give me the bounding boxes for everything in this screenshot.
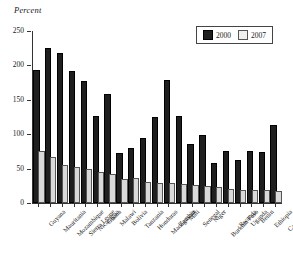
x-tick-mark [85, 203, 86, 207]
bar-group [199, 31, 208, 203]
bar-group [247, 31, 256, 203]
legend-entry-2007: 2007 [238, 30, 266, 40]
bar-2007-ghana [98, 172, 104, 203]
bar-2007-bolivia [121, 179, 127, 203]
bar-group [128, 31, 137, 203]
x-tick-mark [133, 203, 134, 207]
plot-area [32, 31, 281, 203]
bar-group [259, 31, 268, 203]
x-tick-mark [251, 203, 252, 207]
bar-group [81, 31, 90, 203]
bar-group [57, 31, 66, 203]
y-tick-label: 50 [0, 164, 24, 173]
y-tick-mark [27, 169, 31, 170]
x-tick-mark [240, 203, 241, 207]
bar-group [69, 31, 78, 203]
bar-2007-ethiopia [264, 190, 270, 203]
bar-group [93, 31, 102, 203]
y-tick-label: 250 [0, 26, 24, 35]
bar-2007-cameroon [275, 191, 281, 203]
y-tick-mark [27, 31, 31, 32]
y-tick-mark [27, 100, 31, 101]
y-tick-label: 200 [0, 60, 24, 69]
bar-2007-honduras [145, 182, 151, 203]
bar-group [116, 31, 125, 203]
y-tick-label: 150 [0, 95, 24, 104]
bar-group [187, 31, 196, 203]
x-tick-mark [38, 203, 39, 207]
bar-2007-mali [181, 184, 187, 203]
x-tick-mark [145, 203, 146, 207]
x-tick-mark [62, 203, 63, 207]
x-tick-mark [204, 203, 205, 207]
x-tick-mark [50, 203, 51, 207]
chart-legend: 2000 2007 [196, 26, 273, 44]
bar-2007-senegal [192, 185, 198, 204]
y-tick-label: 0 [0, 198, 24, 207]
legend-swatch-icon-2000 [203, 30, 213, 40]
bar-group [164, 31, 173, 203]
x-tick-mark [168, 203, 169, 207]
x-tick-mark [192, 203, 193, 207]
x-tick-mark [121, 203, 122, 207]
y-tick-label: 100 [0, 129, 24, 138]
bar-chart-figure: Percent 050100150200250 GuyanaMauritania… [0, 0, 293, 255]
bar-2007-rwanda [228, 189, 234, 203]
y-tick-mark [27, 203, 31, 204]
bar-2007-niger [204, 186, 210, 203]
bar-group [176, 31, 185, 203]
bar-2007-malawi [109, 174, 115, 203]
bar-group [152, 31, 161, 203]
bar-2007-mozambique [62, 165, 68, 203]
legend-entry-2000: 2000 [203, 30, 231, 40]
x-tick-mark [180, 203, 181, 207]
legend-label-2007: 2007 [251, 31, 266, 40]
bar-2007-madagascar [157, 183, 163, 203]
bar-2007-uganda [240, 190, 246, 203]
bar-2007-tanzania [133, 178, 139, 203]
bar-group [211, 31, 220, 203]
bar-2007-zambia [169, 183, 175, 203]
y-axis-title: Percent [14, 5, 42, 15]
bar-group [223, 31, 232, 203]
x-tick-mark [74, 203, 75, 207]
bar-2007-burkina-faso [216, 187, 222, 203]
bar-group [270, 31, 279, 203]
bar-2007-mauritania [50, 157, 56, 203]
bar-2007-guyana [38, 151, 44, 203]
bar-group [140, 31, 149, 203]
bar-group [235, 31, 244, 203]
y-tick-mark [27, 65, 31, 66]
bar-group [45, 31, 54, 203]
x-tick-mark [275, 203, 276, 207]
x-tick-mark [228, 203, 229, 207]
x-tick-mark [97, 203, 98, 207]
bar-group [104, 31, 113, 203]
legend-swatch-icon-2007 [238, 30, 248, 40]
y-tick-mark [27, 134, 31, 135]
bar-group [33, 31, 42, 203]
x-tick-mark [216, 203, 217, 207]
bar-2007-benin [252, 190, 258, 203]
bar-2007-nicaragua [86, 169, 92, 203]
legend-label-2000: 2000 [216, 31, 231, 40]
x-tick-mark [157, 203, 158, 207]
bar-2007-sierra-leone [74, 167, 80, 203]
x-tick-mark [109, 203, 110, 207]
